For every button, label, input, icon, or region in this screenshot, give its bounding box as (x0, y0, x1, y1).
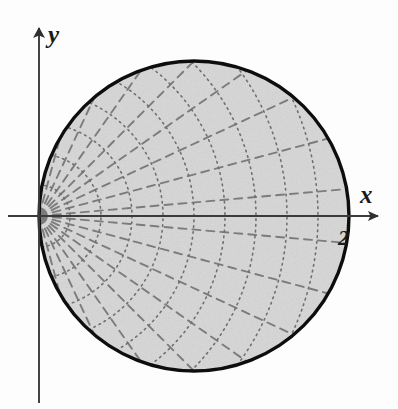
polar-grid-plot (0, 0, 398, 409)
y-axis-label: y (48, 21, 59, 49)
polar-grid-figure: x y 2 (0, 0, 398, 409)
boundary-value-label: 2 (338, 225, 349, 251)
x-axis-label: x (360, 181, 373, 209)
